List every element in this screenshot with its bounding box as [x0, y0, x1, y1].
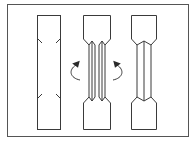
arrowhead-icon [72, 61, 82, 69]
cut-mark-bottom-right [56, 94, 60, 98]
cut-mark-top-right [56, 39, 60, 43]
specimen-outline [84, 16, 111, 130]
flat-strip-with-cut-marks [38, 16, 61, 130]
arrowhead-icon [111, 61, 121, 69]
diagram-canvas [0, 0, 193, 142]
cut-mark-top-left [38, 39, 42, 43]
figure-frame [8, 5, 189, 137]
strip-outline [38, 16, 61, 130]
folding-diagram: Three-step illustration of folding a fla… [0, 0, 193, 142]
cut-mark-bottom-left [38, 94, 42, 98]
folded-dogbone-specimen [132, 16, 157, 130]
folding-sides-inward [84, 16, 111, 130]
fold-arrow-right [111, 61, 122, 80]
fold-arrow-left [71, 61, 82, 80]
